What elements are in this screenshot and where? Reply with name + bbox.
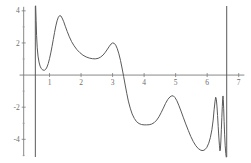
function-curve <box>36 6 227 157</box>
y-tick-label: 2 <box>16 39 20 48</box>
x-tick-label: 4 <box>142 78 146 87</box>
x-tick-label: 1 <box>48 78 52 87</box>
y-tick-label: -4 <box>13 135 19 144</box>
asymptote-lines <box>35 6 226 157</box>
x-tick-label: 5 <box>174 78 178 87</box>
x-tick-label: 7 <box>237 78 241 87</box>
y-axis-tick-labels: -4-224 <box>13 6 20 144</box>
curve-f(x) <box>36 6 227 157</box>
x-tick-label: 6 <box>205 78 209 87</box>
x-tick-label: 3 <box>111 78 115 87</box>
y-tick-label: -2 <box>13 103 19 112</box>
function-plot: 1234567 -4-224 <box>0 0 251 163</box>
x-axis-tick-labels: 1234567 <box>48 78 241 87</box>
x-tick-label: 2 <box>79 78 83 87</box>
plot-canvas: 1234567 -4-224 <box>0 0 251 163</box>
y-tick-label: 4 <box>16 6 20 15</box>
